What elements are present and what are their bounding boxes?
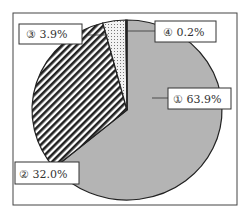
slice-label-4: ④ 0.2% bbox=[155, 21, 216, 42]
slice-label-1-text: ① 63.9% bbox=[173, 93, 221, 106]
slice-label-3-text: ③ 3.9% bbox=[26, 28, 67, 41]
pie-chart: ① 63.9% ② 32.0% ③ 3.9% ④ 0.2% bbox=[0, 0, 247, 217]
slice-label-1: ① 63.9% bbox=[168, 88, 231, 109]
slice-label-2: ② 32.0% bbox=[15, 162, 79, 184]
slice-label-3: ③ 3.9% bbox=[19, 24, 82, 44]
slice-label-4-text: ④ 0.2% bbox=[163, 26, 204, 39]
slice-label-2-text: ② 32.0% bbox=[19, 168, 67, 181]
